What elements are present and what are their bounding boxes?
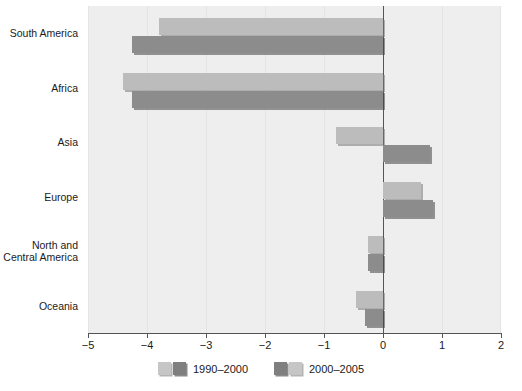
legend-swatch-dark-icon xyxy=(274,362,287,375)
bar-north-and-central-america-2000–2005 xyxy=(368,254,383,271)
bar-oceania-2000–2005 xyxy=(365,309,383,326)
bar-africa-2000–2005 xyxy=(132,91,383,108)
x-tick-mark xyxy=(442,333,443,338)
x-tick-mark xyxy=(324,333,325,338)
zero-axis-line xyxy=(383,6,384,333)
bar-asia-2000–2005 xyxy=(383,145,430,162)
gridline-x xyxy=(442,6,443,333)
y-axis-label-africa: Africa xyxy=(51,82,78,94)
x-tick-label: 1 xyxy=(439,339,445,351)
legend-entry-1990-2000: 1990–2000 xyxy=(158,362,248,375)
gridline-x xyxy=(324,6,325,333)
bar-europe-1990–2000 xyxy=(383,182,421,199)
legend-swatch-dark-icon xyxy=(173,362,186,375)
gridline-x xyxy=(500,6,501,333)
x-axis-line xyxy=(88,333,501,334)
legend-swatch-light-icon xyxy=(158,362,171,375)
y-axis-label-asia: Asia xyxy=(58,136,78,148)
plot-area xyxy=(88,6,501,333)
x-tick-mark xyxy=(265,333,266,338)
bar-asia-1990–2000 xyxy=(336,127,383,144)
chart-legend: 1990–2000 2000–2005 xyxy=(0,362,522,375)
gridline-x xyxy=(147,6,148,333)
bar-south-america-2000–2005 xyxy=(132,36,383,53)
legend-label: 2000–2005 xyxy=(309,363,364,375)
x-tick-label: 0 xyxy=(380,339,386,351)
x-tick-label: −3 xyxy=(200,339,213,351)
y-axis-label-oceania: Oceania xyxy=(39,300,78,312)
x-tick-label: −1 xyxy=(318,339,331,351)
x-tick-mark xyxy=(206,333,207,338)
gridline-x xyxy=(206,6,207,333)
gridline-x xyxy=(88,6,89,333)
legend-label: 1990–2000 xyxy=(193,363,248,375)
x-tick-label: −2 xyxy=(259,339,272,351)
y-axis-label-europe: Europe xyxy=(44,191,78,203)
legend-swatch-light-icon xyxy=(289,362,302,375)
bar-europe-2000–2005 xyxy=(383,200,433,217)
legend-entry-2000-2005: 2000–2005 xyxy=(274,362,364,375)
x-tick-label: −5 xyxy=(82,339,95,351)
y-axis-label-north-and-central-america: North and Central America xyxy=(3,239,78,263)
gridline-x xyxy=(265,6,266,333)
bar-north-and-central-america-1990–2000 xyxy=(368,236,383,253)
legend-swatch-group xyxy=(158,362,186,375)
bar-oceania-1990–2000 xyxy=(356,291,383,308)
x-tick-label: −4 xyxy=(141,339,154,351)
y-axis-label-south-america: South America xyxy=(10,27,78,39)
bar-south-america-1990–2000 xyxy=(159,18,383,35)
x-tick-mark xyxy=(147,333,148,338)
x-tick-mark xyxy=(88,333,89,338)
x-tick-label: 2 xyxy=(498,339,504,351)
bar-africa-1990–2000 xyxy=(123,73,383,90)
x-tick-mark xyxy=(501,333,502,338)
legend-swatch-group xyxy=(274,362,302,375)
bar-chart: −5−4−3−2−1012 South AmericaAfricaAsiaEur… xyxy=(0,0,522,391)
x-tick-mark xyxy=(383,333,384,338)
